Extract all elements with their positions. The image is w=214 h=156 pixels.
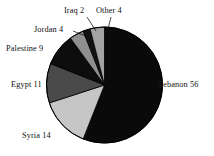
pie-chart: Lebanon 56 Syria 14 Egypt 11 Palestine 9… xyxy=(0,0,214,156)
pie-slices xyxy=(47,27,163,143)
pie-label-iraq: Iraq 2 xyxy=(64,7,84,15)
pie-label-jordan: Jordan 4 xyxy=(34,26,63,34)
pie-label-other: Other 4 xyxy=(96,7,122,15)
pie-label-palestine: Palestine 9 xyxy=(6,45,43,53)
pie-label-lebanon: Lebanon 56 xyxy=(158,81,198,89)
pie-label-egypt: Egypt 11 xyxy=(11,81,42,89)
pie-label-syria: Syria 14 xyxy=(22,132,51,140)
